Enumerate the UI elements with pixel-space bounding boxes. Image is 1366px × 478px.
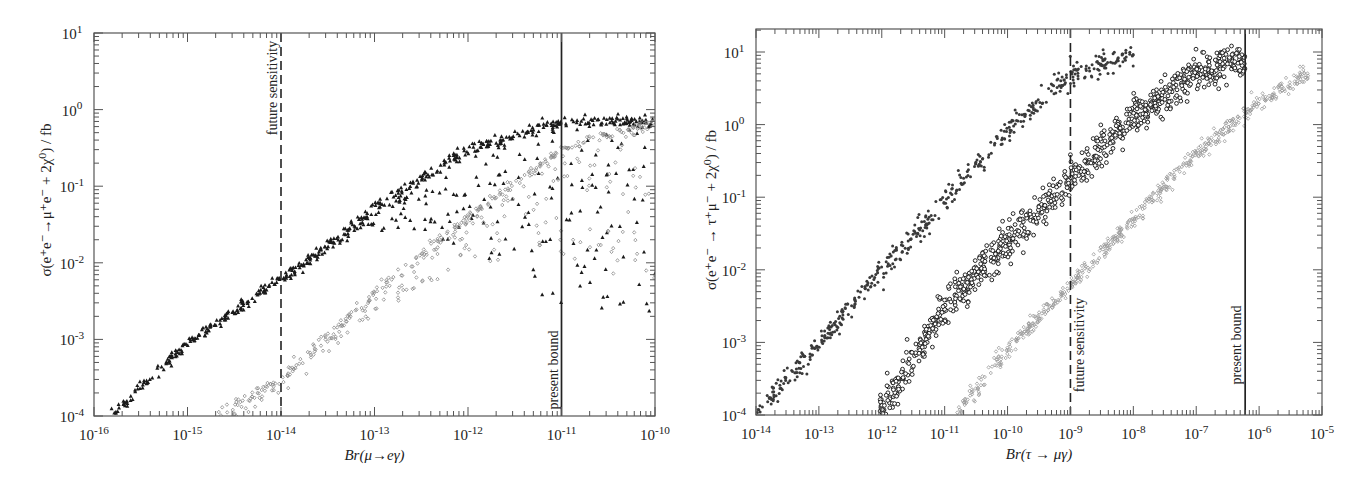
series-1 xyxy=(110,112,657,415)
figure: future sensitivitypresent bound10-1610-1… xyxy=(0,0,1366,478)
tick-label: 10-1 xyxy=(60,176,84,195)
future-sensitivity-label: future sensitivity xyxy=(1072,298,1087,393)
tick-label: 10-14 xyxy=(266,424,296,443)
y-axis-label: σ(e⁺e⁻ → τ⁺μ⁻ + 2χ⁰) / fb xyxy=(703,130,720,290)
tick-label: 10-13 xyxy=(360,424,390,443)
figure-canvas: future sensitivitypresent bound10-1610-1… xyxy=(0,0,1366,478)
tick-label: 10-3 xyxy=(60,329,85,348)
scatter-points xyxy=(110,112,657,421)
x-axis-label: Br(μ→eγ) xyxy=(344,447,404,464)
y-axis-label: σ(e⁺e⁻→μ⁺e⁻ + 2χ⁰) / fb xyxy=(38,123,55,276)
tick-label: 10-1 xyxy=(722,187,746,206)
tick-label: 10-6 xyxy=(1247,423,1272,442)
tick-label: 10-15 xyxy=(173,424,203,443)
tick-label: 10-10 xyxy=(640,424,670,443)
tick-label: 10-7 xyxy=(1184,423,1209,442)
left-chart-mu-e-gamma: future sensitivitypresent bound10-1610-1… xyxy=(38,23,670,464)
tick-label: 10-4 xyxy=(60,406,85,425)
tick-label: 10-2 xyxy=(60,253,84,272)
tick-label: 10-11 xyxy=(547,424,577,443)
tick-label: 10-4 xyxy=(722,405,747,424)
tick-label: 10-14 xyxy=(741,423,771,442)
tick-label: 10-2 xyxy=(722,260,746,279)
future-sensitivity-label: future sensitivity xyxy=(265,41,280,136)
tick-label: 10-3 xyxy=(722,332,747,351)
tick-label: 101 xyxy=(62,23,83,42)
series-2 xyxy=(217,117,656,421)
tick-label: 10-8 xyxy=(1121,423,1146,442)
present-bound-label: present bound xyxy=(546,331,561,410)
right-chart-tau-mu-gamma: future sensitivitypresent bound10-1410-1… xyxy=(703,29,1335,463)
x-axis-label: Br(τ → μγ) xyxy=(1006,446,1072,463)
series-2 xyxy=(878,44,1247,418)
tick-label: 10-16 xyxy=(79,424,109,443)
tick-label: 10-12 xyxy=(867,423,897,442)
present-bound-label: present bound xyxy=(1229,306,1244,385)
tick-label: 10-11 xyxy=(930,423,960,442)
tick-label: 10-5 xyxy=(1310,423,1335,442)
tick-label: 100 xyxy=(724,114,745,133)
tick-label: 100 xyxy=(62,99,83,118)
tick-label: 101 xyxy=(724,42,745,61)
tick-label: 10-9 xyxy=(1058,423,1083,442)
scatter-points xyxy=(755,44,1310,418)
tick-label: 10-13 xyxy=(804,423,834,442)
tick-label: 10-12 xyxy=(453,424,483,443)
tick-label: 10-10 xyxy=(993,423,1023,442)
